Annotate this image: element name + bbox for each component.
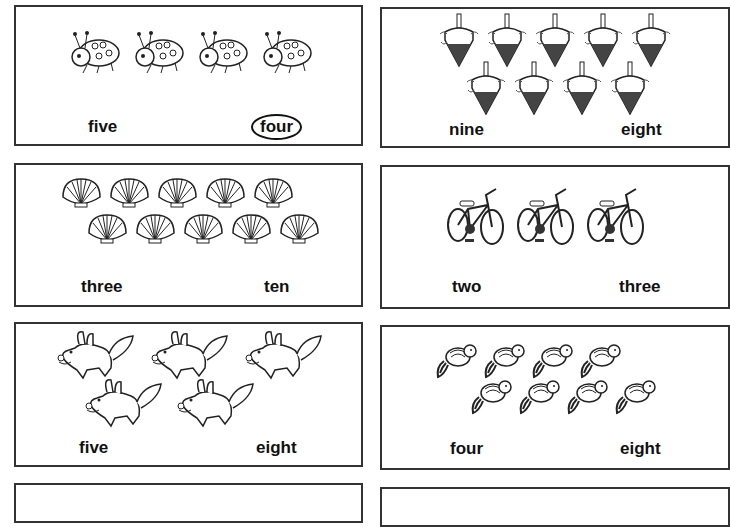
card-partial-right: [380, 487, 730, 527]
puppy-icon: [241, 328, 325, 380]
choice-right[interactable]: eight: [620, 439, 661, 459]
ladybug-icon: [191, 29, 251, 79]
bicycle-icon: [584, 187, 646, 247]
ladybug-icon: [63, 29, 123, 79]
chipmunk-icon: [469, 377, 513, 415]
puppy-icon: [173, 376, 257, 428]
choice-left[interactable]: three: [81, 277, 123, 297]
ladybug-icon: [127, 29, 187, 79]
seashell-icon: [61, 177, 102, 209]
seashell-icon: [231, 213, 272, 245]
spinning-top-icon: [466, 60, 506, 116]
card-partial-left: [14, 483, 363, 523]
card-ladybugs: five four: [14, 5, 363, 146]
card-chipmunks: four eight: [380, 325, 730, 470]
choice-left[interactable]: nine: [449, 120, 484, 140]
chipmunk-icon: [530, 341, 574, 379]
seashell-icon: [109, 177, 150, 209]
choice-right[interactable]: three: [619, 277, 661, 297]
choice-right-circled[interactable]: four: [251, 114, 302, 140]
puppy-icon: [147, 328, 231, 380]
bicycle-icon: [444, 187, 506, 247]
chipmunk-icon: [565, 377, 609, 415]
bicycle-icon: [514, 187, 576, 247]
choice-right[interactable]: ten: [264, 277, 290, 297]
chipmunk-icon: [482, 341, 526, 379]
card-bikes: two three: [380, 165, 730, 309]
seashell-icon: [183, 213, 224, 245]
chipmunk-icon: [434, 341, 478, 379]
chipmunk-icon: [613, 377, 657, 415]
choice-left[interactable]: five: [88, 117, 117, 137]
card-shells: three ten: [14, 163, 363, 307]
choice-right[interactable]: eight: [256, 438, 297, 458]
spinning-top-icon: [610, 60, 650, 116]
chipmunk-icon: [517, 377, 561, 415]
seashell-icon: [253, 177, 294, 209]
top-group: [382, 12, 728, 116]
card-tops: nine eight: [380, 7, 730, 148]
seashell-icon: [87, 213, 128, 245]
seashell-icon: [135, 213, 176, 245]
choice-left[interactable]: five: [79, 438, 108, 458]
chipmunk-group: [382, 341, 728, 415]
bicycle-group: [382, 187, 728, 247]
ladybug-icon: [255, 29, 315, 79]
spinning-top-icon: [562, 60, 602, 116]
seashell-icon: [205, 177, 246, 209]
puppy-group: [16, 328, 361, 428]
ladybug-group: [16, 29, 361, 79]
spinning-top-icon: [514, 60, 554, 116]
puppy-icon: [53, 328, 137, 380]
seashell-icon: [279, 213, 320, 245]
seashell-icon: [157, 177, 198, 209]
card-dogs: five eight: [14, 322, 363, 467]
puppy-icon: [81, 376, 165, 428]
choice-right[interactable]: eight: [621, 120, 662, 140]
chipmunk-icon: [578, 341, 622, 379]
shell-group: [16, 177, 361, 245]
choice-left[interactable]: two: [452, 277, 481, 297]
choice-left[interactable]: four: [450, 439, 483, 459]
